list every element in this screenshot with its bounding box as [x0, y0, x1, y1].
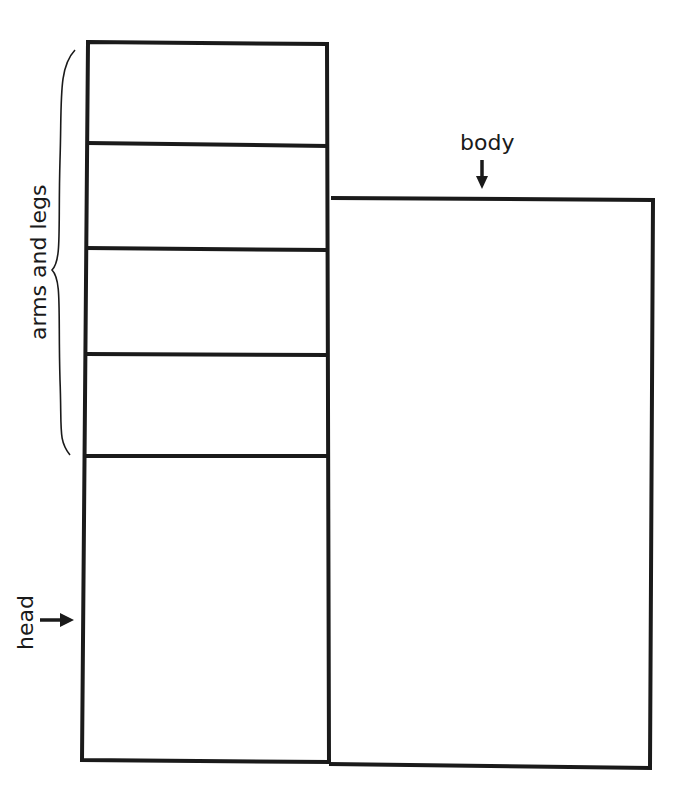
head-arrow-icon [40, 613, 74, 627]
curly-brace [52, 50, 75, 455]
left-column-outline [82, 42, 329, 762]
body-label: body [460, 130, 514, 155]
body-arrow-icon [476, 160, 488, 189]
divider-1 [87, 143, 328, 146]
divider-3 [85, 354, 328, 355]
head-label: head [13, 595, 38, 650]
pattern-diagram: arms and legs body head [0, 0, 697, 811]
arms-and-legs-label: arms and legs [26, 185, 51, 340]
body-rectangle [329, 198, 653, 768]
divider-2 [86, 248, 328, 250]
